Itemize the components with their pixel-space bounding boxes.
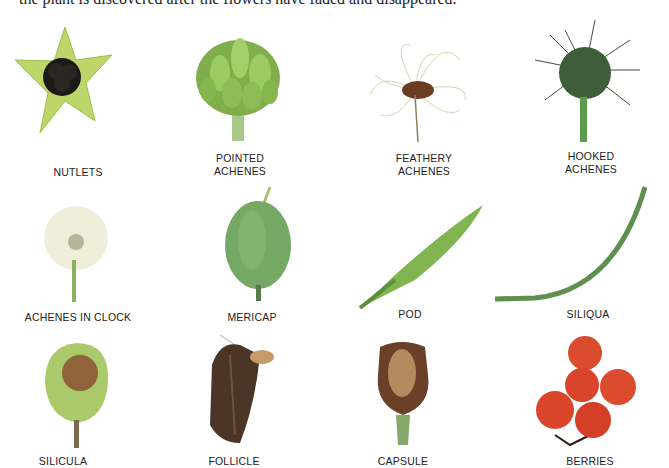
pod-image — [355, 200, 485, 312]
nutlets-image — [10, 25, 120, 135]
achenes-in-clock-image — [40, 200, 120, 305]
capsule-label: CAPSULE — [378, 455, 428, 468]
label-line: ACHENES — [396, 165, 453, 178]
label-line: POINTED — [214, 152, 266, 165]
siliqua-image — [495, 185, 669, 303]
berries-image — [530, 335, 650, 450]
label-line: FEATHERY — [396, 152, 453, 165]
silicula-label: SILICULA — [39, 455, 87, 468]
follicle-image — [200, 325, 285, 450]
mericap-label: MERICAP — [227, 311, 276, 324]
siliqua-label: SILIQUA — [567, 308, 610, 321]
label-line: ACHENES — [214, 165, 266, 178]
label-line: ACHENES — [565, 163, 617, 176]
follicle-label: FOLLICLE — [208, 455, 259, 468]
mericap-image — [222, 185, 297, 303]
achenes-in-clock-label: ACHENES IN CLOCK — [25, 311, 131, 324]
hooked-achenes-image — [530, 15, 650, 145]
feathery-achenes-label: FEATHERY ACHENES — [396, 152, 453, 178]
label-line: HOOKED — [565, 150, 617, 163]
berries-label: BERRIES — [566, 455, 614, 468]
intro-text: the plant is discovered after the flower… — [0, 0, 669, 8]
pointed-achenes-image — [190, 28, 290, 143]
silicula-image — [40, 338, 115, 450]
pod-label: POD — [398, 308, 421, 321]
capsule-image — [370, 335, 435, 447]
nutlets-label: NUTLETS — [53, 166, 102, 179]
feathery-achenes-image — [360, 30, 480, 145]
hooked-achenes-label: HOOKED ACHENES — [565, 150, 617, 176]
pointed-achenes-label: POINTED ACHENES — [214, 152, 266, 178]
